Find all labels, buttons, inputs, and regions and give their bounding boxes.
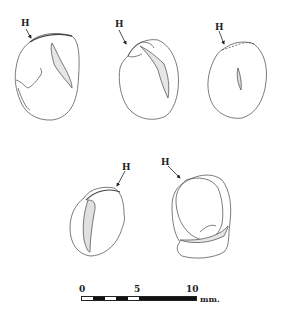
scale-bar bbox=[81, 296, 197, 301]
drawings bbox=[0, 0, 281, 316]
specimen-4-drawing bbox=[70, 187, 125, 256]
scale-seg bbox=[82, 297, 93, 300]
scale-seg bbox=[93, 297, 104, 300]
label-h-specimen-2: H bbox=[115, 20, 124, 29]
label-h-specimen-4: H bbox=[122, 163, 131, 172]
specimen-3-drawing bbox=[208, 42, 267, 118]
scale-tick-5: 5 bbox=[134, 285, 140, 294]
scale-seg bbox=[139, 297, 196, 300]
specimen-1-drawing bbox=[15, 34, 79, 121]
scale-tick-10: 10 bbox=[186, 285, 199, 294]
specimen-figure: H H H H H 0 5 10 mm. bbox=[0, 0, 281, 316]
scale-seg bbox=[128, 297, 139, 300]
specimen-5-drawing bbox=[172, 175, 231, 258]
scale-seg bbox=[116, 297, 127, 300]
label-h-specimen-5: H bbox=[161, 158, 170, 167]
scale-tick-0: 0 bbox=[79, 285, 85, 294]
label-h-specimen-3: H bbox=[215, 23, 224, 32]
scale-unit: mm. bbox=[200, 295, 220, 303]
scale-seg bbox=[105, 297, 116, 300]
label-h-specimen-1: H bbox=[21, 19, 30, 28]
specimen-2-drawing bbox=[119, 40, 178, 120]
